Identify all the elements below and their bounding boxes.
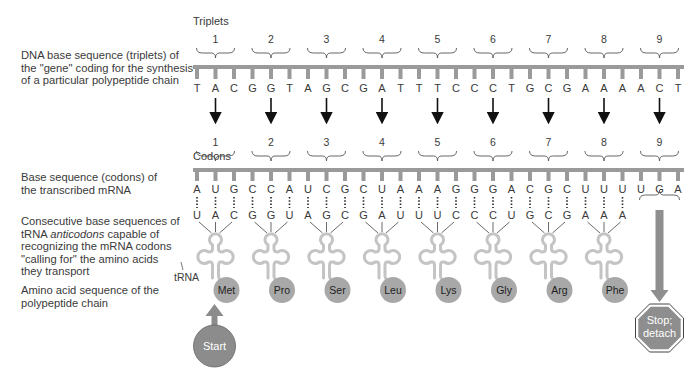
dna-base-tick [306,69,310,79]
mrna-base-tick [417,172,421,181]
mrna-base: A [674,183,682,195]
triplet-number: 3 [324,33,330,45]
amino-acid-label: Pro [274,284,291,296]
mrna-base: G [452,183,461,195]
stop-arrow-icon [651,290,669,302]
codon-brace [530,151,568,161]
dna-base-tick [417,69,421,79]
trna-cloverleaf-icon [309,234,344,281]
amino-acid-label: Met [218,284,236,296]
amino-acid-label: Ser [329,284,346,296]
dna-base-tick [621,69,625,79]
mrna-base-tick [510,172,514,181]
dna-base: G [267,82,276,94]
mrna-base: G [544,183,553,195]
anticodon-base: U [415,209,423,221]
anticodon-connector [442,222,455,233]
mrna-base: C [323,183,331,195]
triplet-brace [585,48,623,58]
anticodon-base: G [267,209,276,221]
dna-base: A [619,82,627,94]
dna-base: G [248,82,257,94]
trna-cloverleaf-icon [586,234,621,281]
anticodon-base: A [600,209,608,221]
mrna-base-tick [214,172,218,181]
anticodon-connector [553,222,566,233]
dna-base-tick [639,69,643,79]
dna-base: A [304,82,312,94]
codon-number: 6 [490,136,496,148]
dna-base-tick [195,69,199,79]
dna-base: G [322,82,331,94]
codon-brace [419,151,457,161]
amino-acid-label: Gly [496,284,513,296]
mrna-base: A [286,183,294,195]
anticodon-base: G [526,209,535,221]
start-arrow-icon [206,304,224,316]
triplet-number: 4 [379,33,385,45]
codon-brace [363,151,401,161]
mrna-base-tick [380,172,384,181]
dna-backbone [193,65,684,69]
dna-base-tick [658,69,662,79]
anticodon-base: C [341,209,349,221]
mrna-base-tick [436,172,440,181]
anticodon-base: U [434,209,442,221]
triplet-brace [308,48,346,58]
dna-base: G [359,82,368,94]
mrna-base-tick [325,172,329,181]
dna-base: A [212,82,220,94]
mrna-base-tick [251,172,255,181]
mrna-base-tick [621,172,625,181]
dna-base: C [230,82,238,94]
dna-base-tick [454,69,458,79]
trna-cloverleaf-icon [364,234,399,281]
dna-base: T [286,82,293,94]
codon-brace [641,151,679,161]
dna-base-tick [547,69,551,79]
mrna-base-tick [547,172,551,181]
mrna-base: U [619,183,627,195]
anticodon-connector [608,222,621,233]
anticodon-connector [477,222,490,233]
codon-brace [252,151,290,161]
amino-acid-label: Lys [441,284,457,296]
anticodon-connector [310,222,323,233]
mrna-base-tick [528,172,532,181]
dna-base-tick [288,69,292,79]
anticodon-connector [421,222,434,233]
anticodon-connector [275,222,288,233]
mrna-base: G [655,183,664,195]
mrna-base: G [489,183,498,195]
anticodon-base: U [193,209,201,221]
mrna-base-tick [269,172,273,181]
anticodon-base: G [248,209,257,221]
mrna-base: A [434,183,442,195]
amino-acid-label: Leu [384,284,402,296]
mrna-base: A [397,183,405,195]
mrna-base-tick [676,172,680,181]
dna-base: T [434,82,441,94]
anticodon-base: G [322,209,331,221]
dna-base-tick [232,69,236,79]
mrna-base-tick [343,172,347,181]
triplet-brace [419,48,457,58]
anticodon-connector [199,222,212,233]
anticodon-connector [532,222,545,233]
mrna-base-tick [602,172,606,181]
mrna-base: U [582,183,590,195]
trna-pointer [181,262,183,270]
mrna-base-tick [195,172,199,181]
dna-base-tick [380,69,384,79]
dna-base-tick [510,69,514,79]
triplet-brace [363,48,401,58]
translation-diagram: Triplets Codons tRNA 1TAC2GGT3AGC4GAT5TT… [0,0,699,374]
triplet-brace [252,48,290,58]
dna-base: G [526,82,535,94]
mrna-base-tick [639,172,643,181]
stop-label-line2: detach [643,327,676,339]
anticodon-connector [331,222,344,233]
codon-brace [474,151,512,161]
mrna-base-tick [232,172,236,181]
anticodon-base: G [359,209,368,221]
